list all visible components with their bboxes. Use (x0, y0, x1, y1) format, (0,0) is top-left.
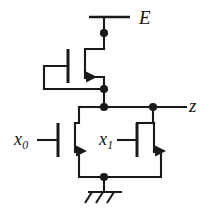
ground-hatch-3 (107, 192, 114, 203)
pulldown-x0-group (38, 107, 104, 177)
output-node-dot (100, 103, 108, 111)
schematic-svg (0, 0, 214, 212)
output-net-group (79, 89, 186, 111)
ground-hatch-2 (96, 192, 103, 203)
input-x0-label: x0 (14, 130, 28, 152)
pulldown-x1-group (104, 107, 166, 177)
input-x0-subscript: 0 (22, 138, 28, 152)
load-drain-lead (85, 49, 104, 55)
x0-source-arrowhead (76, 146, 87, 157)
output-label: z (189, 96, 196, 115)
load-source-arrowhead (86, 72, 97, 83)
supply-label: E (139, 8, 151, 27)
x0-drain-lead (75, 107, 79, 123)
input-x0-base: x (14, 129, 22, 149)
x1-drain-lead (153, 107, 154, 123)
input-x1-base: x (99, 129, 107, 149)
input-x1-subscript: 1 (107, 138, 113, 152)
supply-rail-group (89, 17, 130, 49)
ground-hatch-1 (85, 192, 92, 203)
circuit-diagram: E z x0 x1 (0, 0, 214, 212)
x1-source-lead (104, 151, 161, 177)
load-transistor-group (44, 49, 108, 93)
input-x1-label: x1 (99, 130, 113, 152)
x0-source-lead (75, 151, 104, 177)
supply-node-dot (100, 29, 108, 37)
